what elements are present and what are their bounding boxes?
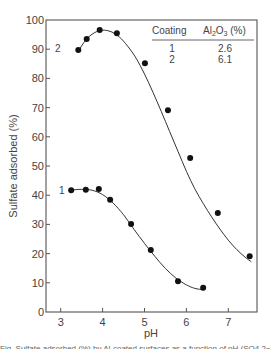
- y-tick-label: 100: [26, 14, 44, 26]
- data-point-series-2: [215, 210, 221, 216]
- data-point-series-1: [83, 187, 89, 193]
- data-points: [68, 27, 252, 291]
- data-point-series-1: [128, 221, 134, 227]
- curve-1: [71, 189, 203, 289]
- data-point-series-2: [142, 60, 148, 66]
- legend-row2-value: 6.1: [218, 54, 232, 65]
- x-tick-label: 3: [58, 316, 64, 328]
- legend-row2-coating: 2: [169, 54, 175, 65]
- y-tick-label: 70: [32, 102, 44, 114]
- curve-2-label: 2: [55, 43, 61, 54]
- y-tick-label: 90: [32, 43, 44, 55]
- y-tick-label: 10: [32, 277, 44, 289]
- data-point-series-2: [84, 36, 90, 42]
- legend-row1-coating: 1: [169, 43, 175, 54]
- data-point-series-2: [114, 30, 120, 36]
- curve-1-label: 1: [59, 185, 65, 196]
- data-point-series-2: [247, 253, 253, 259]
- data-point-series-2: [75, 47, 81, 53]
- data-point-series-2: [97, 27, 103, 33]
- x-tick-label: 6: [183, 316, 189, 328]
- data-point-series-1: [200, 285, 206, 291]
- data-point-series-2: [187, 155, 193, 161]
- x-tick-label: 7: [225, 316, 231, 328]
- legend-header-al2o3: Al2O3 (%): [203, 25, 246, 37]
- y-tick-label: 30: [32, 218, 44, 230]
- x-axis-title: pH: [144, 327, 158, 339]
- data-point-series-1: [175, 278, 181, 284]
- data-point-series-2: [165, 107, 171, 113]
- data-point-series-1: [148, 247, 154, 253]
- legend-row1-value: 2.6: [218, 43, 232, 54]
- axis-ticks: 010203040506070809010034567: [26, 14, 232, 328]
- fitted-curves: [71, 30, 251, 290]
- y-tick-label: 0: [38, 306, 44, 318]
- legend-header-coating: Coating: [152, 25, 186, 36]
- data-point-series-1: [96, 186, 102, 192]
- y-tick-label: 80: [32, 72, 44, 84]
- y-tick-label: 50: [32, 160, 44, 172]
- sulfate-adsorption-chart: 010203040506070809010034567 pH Sulfate a…: [0, 0, 270, 353]
- y-tick-label: 60: [32, 131, 44, 143]
- legend-table: Coating Al2O3 (%) 1 2.6 2 6.1: [152, 25, 254, 65]
- data-point-series-1: [107, 197, 113, 203]
- y-tick-label: 40: [32, 189, 44, 201]
- y-tick-label: 20: [32, 248, 44, 260]
- data-point-series-1: [68, 187, 74, 193]
- y-axis-title: Sulfate adsorbed (%): [7, 114, 19, 217]
- x-tick-label: 4: [100, 316, 106, 328]
